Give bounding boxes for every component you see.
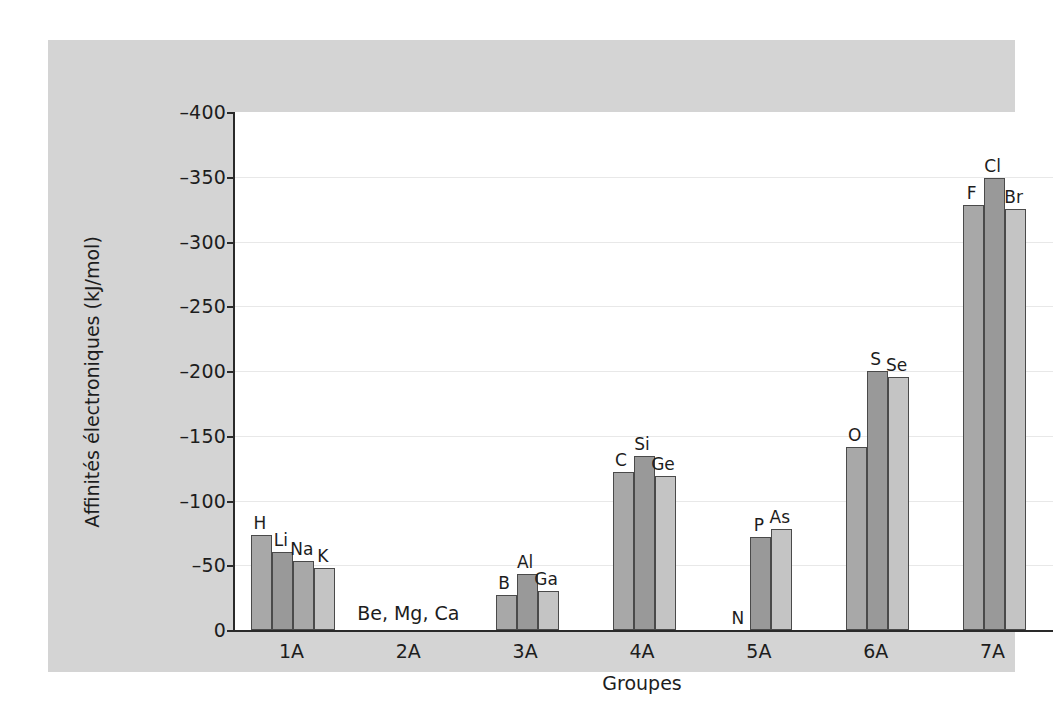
bar-label-k: K (317, 546, 328, 566)
y-axis-tick-label: –50 (192, 554, 226, 576)
y-axis-tick-mark (227, 501, 234, 503)
bar-s (867, 371, 888, 630)
gridline (235, 371, 1053, 372)
bar-o (846, 447, 867, 630)
bar-h (251, 535, 272, 630)
bar-label-b: B (498, 573, 510, 593)
bar-label-na: Na (290, 539, 313, 559)
bar-label-f: F (967, 183, 977, 203)
y-axis-tick-mark (227, 306, 234, 308)
y-axis-tick-mark (227, 436, 234, 438)
x-axis-group-label-4a: 4A (629, 640, 654, 662)
plot-area (233, 112, 1053, 632)
bar-label-se: Se (886, 355, 907, 375)
y-axis-tick-label: –250 (179, 295, 226, 317)
bar-f (963, 205, 984, 630)
bar-si (634, 456, 655, 630)
bar-label-si: Si (634, 434, 650, 454)
x-axis-group-label-6a: 6A (863, 640, 888, 662)
y-axis-tick-mark (227, 565, 234, 567)
figure-panel: –400–350–300–250–200–150–100–500 Affinit… (48, 40, 1015, 672)
group-note-label: Be, Mg, Ca (357, 602, 459, 624)
bar-li (272, 552, 293, 630)
bar-label-ga: Ga (534, 569, 558, 589)
bar-as (771, 529, 792, 630)
y-axis-tick-mark (227, 630, 234, 632)
bar-na (293, 561, 314, 630)
y-axis-tick-labels: –400–350–300–250–200–150–100–500 (166, 112, 226, 630)
bar-label-br: Br (1004, 187, 1023, 207)
bar-c (613, 472, 634, 630)
gridline (235, 177, 1053, 178)
x-axis-group-label-2a: 2A (396, 640, 421, 662)
bar-label-h: H (254, 513, 267, 533)
bar-label-cl: Cl (984, 156, 1001, 176)
y-axis-tick-label: –200 (179, 360, 226, 382)
y-axis-tick-mark (227, 242, 234, 244)
y-axis-tick-label: –100 (179, 490, 226, 512)
bar-label-ge: Ge (651, 454, 675, 474)
y-axis-tick-label: –150 (179, 425, 226, 447)
bar-p (750, 537, 771, 630)
bar-ga (538, 591, 559, 630)
bar-se (888, 377, 909, 630)
gridline (235, 242, 1053, 243)
x-axis-title: Groupes (233, 672, 1051, 694)
bar-label-as: As (770, 507, 791, 527)
y-axis-title: Affinités électroniques (kJ/mol) (81, 162, 103, 602)
y-axis-tick-label: 0 (214, 619, 226, 641)
bar-br (1005, 209, 1026, 630)
gridline (235, 306, 1053, 307)
x-axis-group-label-7a: 7A (980, 640, 1005, 662)
y-axis-tick-mark (227, 177, 234, 179)
y-axis-tick-mark (227, 371, 234, 373)
x-axis-group-label-1a: 1A (279, 640, 304, 662)
bar-label-al: Al (517, 552, 533, 572)
y-axis-tick-label: –350 (179, 166, 226, 188)
y-axis-tick-label: –300 (179, 231, 226, 253)
y-axis-tick-mark (227, 112, 234, 114)
bar-k (314, 568, 335, 630)
bar-label-p: P (754, 515, 764, 535)
y-axis-tick-label: –400 (179, 101, 226, 123)
bar-label-c: C (615, 450, 627, 470)
figure-page: –400–350–300–250–200–150–100–500 Affinit… (0, 0, 1060, 702)
bar-ge (655, 476, 676, 630)
bar-label-o: O (848, 425, 861, 445)
bar-label-s: S (870, 349, 881, 369)
bar-label-n: N (731, 608, 744, 628)
x-axis-group-label-3a: 3A (513, 640, 538, 662)
bar-label-li: Li (274, 530, 288, 550)
x-axis-group-label-5a: 5A (746, 640, 771, 662)
bar-b (496, 595, 517, 630)
bar-cl (984, 178, 1005, 630)
